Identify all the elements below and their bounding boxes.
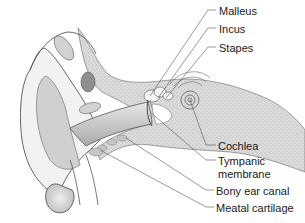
label-meatal-cartilage: Meatal cartilage [216,202,294,214]
label-malleus: Malleus [219,5,257,17]
label-incus: Incus [219,23,245,35]
label-stapes: Stapes [219,42,253,54]
earlobe [46,184,74,213]
label-tympanic: Tympanic [218,155,265,167]
label-cochlea: Cochlea [218,140,258,152]
temporal-bone [78,28,305,172]
label-membrane: membrane [218,168,271,180]
cartilage-dark [81,72,95,92]
label-bony-ear-canal: Bony ear canal [216,185,289,197]
